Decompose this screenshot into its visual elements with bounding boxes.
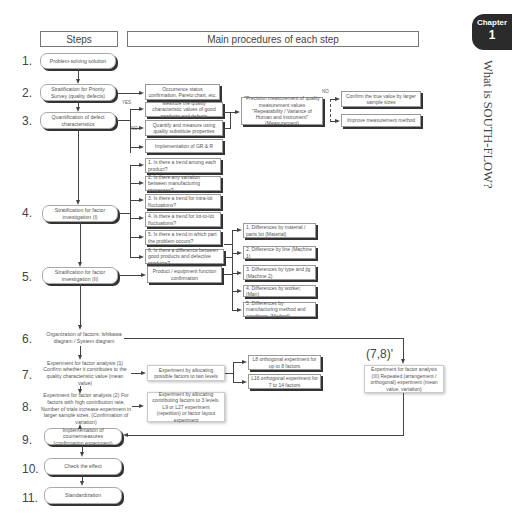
improve-measurement-box: Improve measurement method (341, 114, 421, 127)
arrow-down-icon (78, 355, 82, 360)
connector (118, 120, 130, 121)
quantify-substitute-box: Quantify and measure using quality subst… (145, 120, 223, 136)
connector (224, 274, 232, 275)
gr-and-r-box: Implementation of GR & R (145, 139, 223, 153)
connector (225, 373, 233, 374)
l16-experiment-box: L16 orthogonal experiment for 7 to 14 fa… (248, 374, 321, 389)
arrow-right-icon (237, 289, 242, 293)
step-1-box: Problem-solving solution (40, 53, 116, 69)
arrow-right-icon (139, 235, 144, 239)
step-2-box: Stratification for Priority Survey (qual… (40, 84, 116, 101)
arrow-right-icon (141, 273, 146, 277)
arrow-right-icon (237, 228, 242, 232)
arrow-right-icon (141, 371, 146, 375)
step-9-box: Implementation of countermeasures (confi… (44, 428, 122, 445)
measure-good-defects-box: Measure the quality characteristic value… (145, 102, 223, 117)
connector (80, 284, 81, 326)
arrow-right-icon (139, 216, 144, 220)
step5-procedure-box: Product / equipment function confirmatio… (147, 266, 222, 283)
step-number-5: 5. (22, 270, 32, 284)
dashed-branch (330, 99, 331, 122)
step-number-11: 11. (22, 491, 38, 505)
precision-measurement-box: "Precision measurement of quality measur… (241, 97, 323, 125)
connector (233, 362, 234, 382)
step2-procedure-box: Occurrence status confirmation, Pareto c… (145, 84, 220, 100)
arrow-down-icon (80, 481, 84, 486)
arrow-right-icon (237, 251, 242, 255)
step-number-6: 6. (22, 332, 32, 346)
arrow-right-icon (139, 91, 144, 95)
arrow-right-icon (139, 126, 144, 130)
step-number-4: 4. (22, 206, 32, 220)
step5-item-material: 1. Differences by material / parts lot (… (243, 223, 316, 238)
connector (403, 338, 404, 360)
chapter-title: What is SOUTH-FLOW? (470, 60, 495, 240)
connector (232, 230, 233, 310)
step-11-box: Standardization (44, 487, 122, 504)
arrow-right-icon (237, 271, 242, 275)
step4-item-2: 2. Is there any variation between manufa… (145, 176, 221, 191)
connector (223, 128, 231, 129)
connector (78, 129, 79, 201)
step5-item-machine1: 2. Difference by line (Machine 1) (243, 246, 316, 259)
step-7-text: Experiment for factor analysis (1) Confi… (40, 360, 130, 386)
connector (224, 244, 232, 245)
step4-item-1: 1. Is there a trend among each product? (145, 158, 221, 173)
arrow-down-icon (401, 359, 405, 364)
step-3-box: Quantification of defect characteristics (40, 112, 116, 129)
connector (80, 222, 81, 263)
step-5-box: Stratification for factor investigation … (42, 267, 118, 284)
step4-item-6: 6. Is there a difference between good pr… (145, 249, 224, 264)
arrow-right-icon (139, 404, 144, 408)
step78-box: Experiment for factor analysis (III) Rep… (364, 365, 444, 393)
connector (403, 393, 404, 435)
confirm-true-value-box: Confirm the true value by larger sample … (341, 91, 421, 107)
arrow-down-icon (76, 200, 80, 205)
connector (118, 213, 130, 214)
step4-item-5: 5. Is there a trend in which part the pr… (145, 230, 221, 245)
arrow-down-icon (76, 79, 80, 84)
arrow-right-icon (139, 145, 144, 149)
step-number-1: 1. (22, 54, 32, 68)
step-10-box: Check the effect (44, 458, 122, 475)
yes-label: YES (122, 100, 131, 105)
step5-item-man: 4. Differences by worker, (Man) (243, 285, 316, 297)
l8-experiment-box: L8 orthogonal experiment for up to 8 fac… (248, 355, 321, 370)
connector (224, 257, 232, 258)
arrow-right-icon (139, 163, 144, 167)
step-number-8: 8. (22, 400, 32, 414)
arrow-right-icon (335, 119, 340, 123)
connector (223, 112, 235, 113)
step-number-7: 7. (22, 368, 32, 382)
arrow-right-icon (242, 360, 247, 364)
step-number-2: 2. (22, 86, 32, 100)
arrow-down-icon (78, 325, 82, 330)
step4-item-3: 3. Is there a trend for intra-lot fluctu… (145, 194, 221, 209)
chapter-tab: Chapter 1 (472, 14, 512, 50)
connector (118, 93, 140, 94)
step-6-text: Organization of factors: Ishikawa diagra… (44, 330, 124, 346)
arrow-right-icon (237, 308, 242, 312)
no-label-2: NO (322, 89, 329, 94)
connector (124, 338, 403, 339)
connector (230, 112, 231, 128)
arrow-right-icon (139, 107, 144, 111)
step-8-text: Experiment for factor analysis (2) For f… (40, 393, 132, 425)
arrow-left-icon (123, 433, 128, 437)
connector (128, 435, 404, 436)
arrow-down-icon (78, 389, 82, 394)
connector (120, 275, 142, 276)
step5-item-method: 5. Differences by manufacturing method a… (243, 302, 316, 317)
step5-item-machine2: 3. Differences by type and jig (Machine … (243, 265, 316, 280)
step-number-3: 3. (22, 114, 32, 128)
chapter-label: Chapter (472, 18, 512, 27)
arrow-down-icon (80, 452, 84, 457)
step7-procedure-box: Experiment by allocating possible factor… (147, 365, 225, 381)
arrow-right-icon (139, 198, 144, 202)
arrow-right-icon (235, 110, 240, 114)
arrow-down-icon (76, 107, 80, 112)
main-procedures-header: Main procedures of each step (127, 31, 419, 47)
connector (130, 165, 131, 258)
step78-label: (7,8)' (366, 347, 393, 361)
arrow-up-icon (78, 424, 82, 429)
